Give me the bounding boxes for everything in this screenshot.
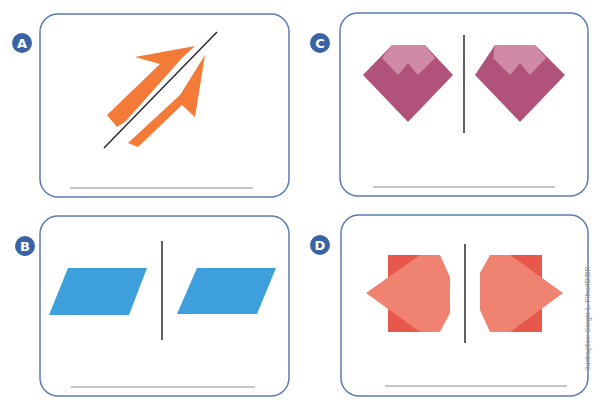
card-c: C	[310, 13, 588, 196]
badge-d-label: D	[315, 238, 326, 253]
symmetry-exercise: A C B D	[0, 0, 604, 410]
badge-a-label: A	[17, 36, 27, 51]
badge-c-label: C	[315, 36, 325, 51]
card-d: D	[310, 215, 588, 396]
card-a-frame	[40, 14, 289, 197]
card-a: A	[12, 14, 289, 197]
illustration-credit: Ilustrações: Sergio L. Filho/ID/BR	[584, 267, 591, 371]
card-b: B	[15, 216, 289, 396]
badge-b-label: B	[20, 239, 30, 254]
